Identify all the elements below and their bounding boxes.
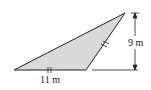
shaded-triangle xyxy=(14,13,125,70)
base-label: 11 m xyxy=(40,74,60,85)
triangle-diagram: 9 m 11 m xyxy=(0,0,151,90)
height-label: 9 m xyxy=(128,37,144,48)
